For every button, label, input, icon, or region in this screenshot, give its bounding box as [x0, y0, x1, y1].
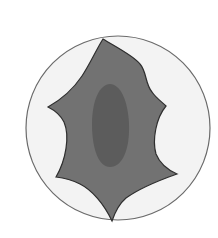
cell-diagram-svg	[0, 0, 218, 238]
nucleus	[92, 84, 129, 167]
cell-diagram	[0, 0, 218, 238]
